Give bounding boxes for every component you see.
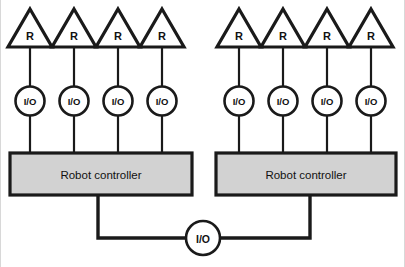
io-node[interactable]: I/O <box>357 87 386 116</box>
io-node[interactable]: I/O <box>313 87 342 116</box>
robot-label: R <box>367 30 375 42</box>
left-cell-wires <box>30 48 162 155</box>
shared-io-node[interactable]: I/O <box>186 221 220 255</box>
robot-node[interactable]: R <box>305 9 349 47</box>
right-cell-wires <box>239 48 371 155</box>
robot-node[interactable]: R <box>261 9 305 47</box>
robot-controller[interactable]: Robot controller <box>216 153 396 195</box>
io-label: I/O <box>233 96 246 107</box>
robot-node[interactable]: R <box>52 9 96 47</box>
robot-node[interactable]: R <box>349 9 393 47</box>
shared-bus: I/O <box>98 195 310 255</box>
io-node[interactable]: I/O <box>225 87 254 116</box>
left-cell: R R R R I/O I/O <box>8 9 192 195</box>
io-label: I/O <box>156 96 169 107</box>
robot-controller[interactable]: Robot controller <box>10 153 192 195</box>
robot-controller-label: Robot controller <box>265 169 346 181</box>
io-label: I/O <box>365 96 378 107</box>
robot-controller-label: Robot controller <box>60 169 141 181</box>
robot-label: R <box>323 30 331 42</box>
io-node[interactable]: I/O <box>16 87 45 116</box>
io-label: I/O <box>277 96 290 107</box>
robot-node[interactable]: R <box>140 9 184 47</box>
robot-node[interactable]: R <box>96 9 140 47</box>
io-label: I/O <box>24 96 37 107</box>
robot-node[interactable]: R <box>217 9 261 47</box>
robot-label: R <box>26 30 34 42</box>
robot-label: R <box>70 30 78 42</box>
io-label: I/O <box>68 96 81 107</box>
right-cell: R R R R I/O I/O <box>216 9 396 195</box>
robot-label: R <box>158 30 166 42</box>
robot-node[interactable]: R <box>8 9 52 47</box>
io-node[interactable]: I/O <box>60 87 89 116</box>
shared-io-label: I/O <box>196 233 210 245</box>
io-node[interactable]: I/O <box>148 87 177 116</box>
robot-label: R <box>279 30 287 42</box>
robot-label: R <box>114 30 122 42</box>
io-label: I/O <box>112 96 125 107</box>
io-node[interactable]: I/O <box>269 87 298 116</box>
io-label: I/O <box>321 96 334 107</box>
io-node[interactable]: I/O <box>104 87 133 116</box>
robot-label: R <box>235 30 243 42</box>
robot-cell-diagram: R R R R I/O I/O <box>0 0 405 267</box>
